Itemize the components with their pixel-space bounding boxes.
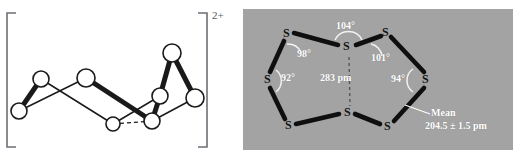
atom-a1: [11, 103, 27, 119]
bond-s1-s2: [294, 33, 338, 45]
atom-a2: [33, 71, 49, 87]
arc-94: [407, 69, 413, 92]
atom-a6: [152, 88, 168, 104]
bond-group-thick: [19, 53, 195, 121]
mean-label-line2: 204.5 ± 1.5 pm: [425, 120, 487, 131]
left-structure-panel: 2+: [0, 0, 240, 159]
atom-label-s4: S: [422, 72, 429, 87]
atom-label-s8: S: [264, 72, 271, 87]
atom-label-s2: S: [343, 39, 350, 54]
figure-root: 2+: [0, 0, 513, 159]
bond-s4-s5: [394, 88, 424, 121]
mean-leader-line: [405, 105, 430, 114]
atom-a5: [144, 113, 160, 129]
atom-label-s6: S: [344, 105, 351, 120]
atom-a7: [163, 44, 181, 62]
atom-a3: [77, 69, 95, 87]
bracket-open: [7, 13, 16, 147]
atom-a4: [106, 117, 120, 131]
atom-group: [11, 44, 204, 131]
bond-s5-s6: [355, 114, 380, 124]
transannular-distance-label: 283 pm: [320, 72, 351, 83]
atom-a8: [186, 89, 204, 107]
angle-label-94: 94°: [391, 73, 405, 84]
angle-label-98: 98°: [297, 48, 311, 59]
atom-label-s3: S: [382, 25, 389, 40]
bond-a3-a5: [86, 78, 152, 121]
angle-label-104: 104°: [336, 20, 355, 31]
bond-s3-s4: [391, 37, 424, 72]
left-structure-drawing: [0, 0, 240, 159]
angle-label-101: 101°: [371, 52, 390, 63]
mean-label-line1: Mean: [431, 107, 455, 118]
atom-label-s5: S: [384, 119, 391, 134]
right-structure-panel: S S S S S S S S 104° 98° 101° 92° 94° 28…: [240, 0, 513, 159]
atom-label-s1: S: [283, 26, 290, 41]
bond-s7-s8: [270, 88, 285, 119]
bond-s6-s7: [296, 114, 339, 124]
atom-label-s7: S: [285, 118, 292, 133]
charge-label: 2+: [212, 9, 224, 21]
bond-s8-s1: [270, 41, 284, 72]
angle-label-92: 92°: [281, 72, 295, 83]
bracket-close: [198, 13, 207, 147]
